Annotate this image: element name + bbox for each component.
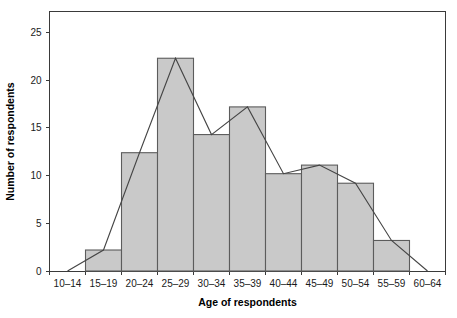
x-tick-label: 10–14 (54, 278, 82, 289)
chart-canvas: 0510152025 10–1415–1920–2425–2930–3435–3… (0, 0, 457, 318)
y-tick-label: 15 (30, 122, 42, 133)
x-tick-label: 20–24 (126, 278, 154, 289)
x-tick-label: 35–39 (234, 278, 262, 289)
y-axis-ticks: 0510152025 (30, 27, 49, 277)
x-axis-ticks (50, 271, 446, 275)
x-tick-label: 40–44 (270, 278, 298, 289)
y-axis-title: Number of respondents (4, 82, 16, 201)
y-tick-label: 20 (30, 75, 42, 86)
histogram-bar (194, 135, 230, 271)
histogram-bar (230, 107, 266, 271)
y-tick-label: 10 (30, 170, 42, 181)
histogram-bar (86, 250, 122, 271)
x-tick-label: 45–49 (306, 278, 334, 289)
x-tick-label: 25–29 (162, 278, 190, 289)
x-axis-title: Age of respondents (198, 296, 297, 308)
y-tick-label: 25 (30, 27, 42, 38)
histogram-bar (266, 174, 302, 271)
histogram-bar (338, 183, 374, 271)
x-tick-label: 50–54 (342, 278, 370, 289)
histogram-bar (374, 240, 410, 271)
x-tick-label: 55–59 (378, 278, 406, 289)
y-tick-label: 0 (36, 266, 42, 277)
x-tick-label: 60–64 (414, 278, 442, 289)
x-tick-label: 30–34 (198, 278, 226, 289)
histogram-figure: 0510152025 10–1415–1920–2425–2930–3435–3… (0, 0, 457, 318)
x-axis-tick-labels: 10–1415–1920–2425–2930–3435–3940–4445–49… (54, 278, 442, 289)
histogram-bar (302, 165, 338, 271)
histogram-bars (86, 58, 410, 271)
x-tick-label: 15–19 (90, 278, 118, 289)
y-tick-label: 5 (36, 218, 42, 229)
histogram-bar (122, 153, 158, 271)
